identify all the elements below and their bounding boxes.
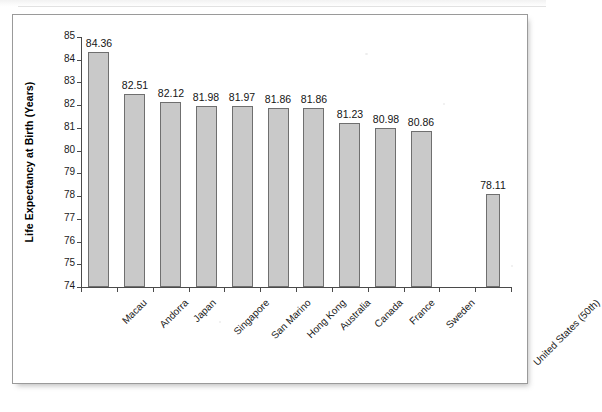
x-tick-mark (117, 288, 118, 292)
bar (268, 108, 289, 287)
x-tick-mark (296, 288, 297, 292)
x-category-label: Canada (372, 297, 405, 330)
x-tick-mark (368, 288, 369, 292)
bar (160, 102, 181, 287)
bar (232, 106, 253, 287)
scan-speckle (365, 53, 368, 55)
bar-chart: Life Expectancy at Birth (Years) 8584838… (13, 15, 529, 385)
y-tick-label: 76 (37, 236, 75, 246)
x-tick-mark (404, 288, 405, 292)
y-tick-label: 80 (37, 145, 75, 155)
x-tick-mark (189, 288, 190, 292)
x-tick-mark (224, 288, 225, 292)
bar (303, 108, 324, 287)
scan-speckle (443, 103, 445, 105)
y-tick-label: 79 (37, 167, 75, 177)
x-tick-mark (439, 288, 440, 292)
bar (411, 131, 432, 287)
x-tick-mark (511, 288, 512, 292)
bar (375, 128, 396, 287)
y-tick-label: 78 (37, 190, 75, 200)
x-category-label: Andorra (157, 297, 190, 330)
bar (196, 106, 217, 287)
x-category-label: Singapore (231, 297, 271, 337)
bar-value-label: 80.86 (391, 117, 451, 128)
x-category-label: Macau (120, 297, 149, 326)
bar-value-label: 81.86 (284, 94, 344, 105)
y-axis-line (81, 37, 82, 288)
x-category-label: Sweden (444, 297, 477, 330)
bar (486, 194, 500, 287)
x-tick-mark (475, 288, 476, 292)
chart-figure-panel: Life Expectancy at Birth (Years) 8584838… (12, 14, 528, 384)
bar-value-label: 84.36 (69, 38, 129, 49)
x-category-label: Japan (191, 297, 218, 324)
scan-speckle (511, 265, 513, 267)
y-tick-label: 74 (37, 281, 75, 291)
x-tick-mark (81, 288, 82, 292)
y-tick-label: 83 (37, 76, 75, 86)
scan-top-rule (18, 6, 546, 7)
y-axis-title: Life Expectancy at Birth (Years) (23, 32, 35, 292)
bar (124, 94, 145, 287)
y-tick-label: 81 (37, 122, 75, 132)
x-category-label: United States (50th) (531, 297, 602, 368)
bar-value-label: 78.11 (463, 180, 523, 191)
scan-speckle (219, 321, 221, 323)
x-tick-mark (153, 288, 154, 292)
y-tick-label: 75 (37, 258, 75, 268)
x-tick-mark (332, 288, 333, 292)
bar (339, 123, 360, 287)
y-tick-label: 77 (37, 213, 75, 223)
x-tick-mark (260, 288, 261, 292)
x-category-label: France (407, 297, 437, 327)
y-tick-label: 82 (37, 99, 75, 109)
y-tick-label: 84 (37, 54, 75, 64)
